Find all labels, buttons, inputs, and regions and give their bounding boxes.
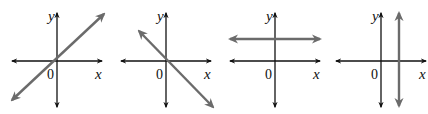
coordinate-graphs-figure: yx0yx0yx0yx0 xyxy=(0,0,428,114)
y-axis-label: y xyxy=(46,8,55,24)
graph-panel-negative-slope: yx0 xyxy=(121,8,213,107)
x-axis-label: x xyxy=(94,66,102,82)
graph-panel-vertical-line: yx0 xyxy=(336,8,426,107)
x-axis-label: x xyxy=(312,66,320,82)
x-axis-label: x xyxy=(418,66,426,82)
y-axis-label: y xyxy=(370,8,379,24)
origin-label: 0 xyxy=(156,67,163,82)
plotted-line xyxy=(139,31,213,107)
origin-label: 0 xyxy=(265,67,272,82)
graph-panel-horizontal-line: yx0 xyxy=(230,8,320,107)
plotted-line xyxy=(12,14,104,100)
graph-panel-positive-slope: yx0 xyxy=(12,8,104,107)
y-axis-label: y xyxy=(264,8,273,24)
origin-label: 0 xyxy=(47,67,54,82)
origin-label: 0 xyxy=(371,67,378,82)
y-axis-label: y xyxy=(155,8,164,24)
x-axis-label: x xyxy=(203,66,211,82)
